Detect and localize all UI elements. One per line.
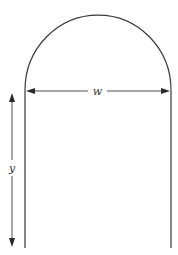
window-outline bbox=[25, 15, 171, 248]
width-label: w bbox=[93, 85, 103, 98]
arrowhead-down-icon bbox=[9, 238, 15, 247]
arrowhead-left-icon bbox=[26, 88, 35, 94]
norman-window-diagram: w y bbox=[0, 0, 178, 255]
arrowhead-up-icon bbox=[9, 93, 15, 102]
arrowhead-right-icon bbox=[161, 88, 170, 94]
height-label: y bbox=[8, 162, 16, 175]
width-dimension: w bbox=[26, 85, 170, 98]
height-dimension: y bbox=[8, 93, 16, 247]
